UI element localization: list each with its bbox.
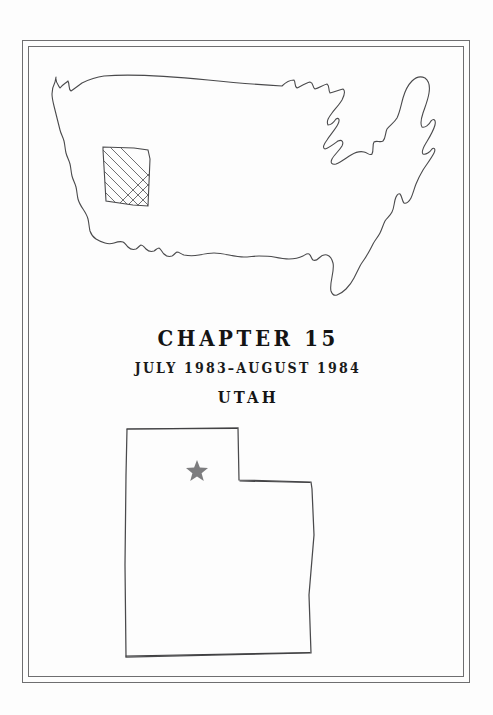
chapter-title-page: CHAPTER 15 JULY 1983–AUGUST 1984 UTAH xyxy=(0,0,493,715)
utah-inset-map xyxy=(110,415,325,670)
capital-star-icon xyxy=(186,460,208,481)
chapter-heading: CHAPTER 15 JULY 1983–AUGUST 1984 UTAH xyxy=(0,326,493,406)
utah-outline-path xyxy=(125,428,314,657)
united-states-map xyxy=(38,55,458,310)
chapter-state-name: UTAH xyxy=(32,389,461,406)
chapter-date-range: JULY 1983–AUGUST 1984 xyxy=(32,361,461,376)
page-title: CHAPTER 15 xyxy=(35,326,459,349)
